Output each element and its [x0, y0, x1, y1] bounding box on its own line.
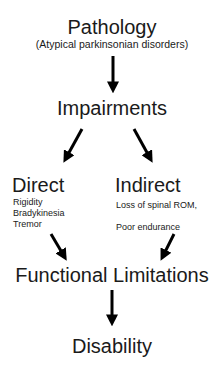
node-direct-title: Direct	[12, 175, 64, 195]
indirect-item: Loss of spinal ROM,	[116, 200, 197, 211]
node-disability-title: Disability	[0, 336, 224, 356]
indirect-items-list: Loss of spinal ROM, Poor endurance	[116, 200, 197, 233]
arrow-impairments-to-direct	[66, 129, 82, 158]
arrow-impairments-to-indirect	[134, 129, 150, 158]
node-indirect-title: Indirect	[115, 175, 181, 195]
arrow-indirect-to-functional-limitations	[163, 234, 174, 256]
node-pathology-subtitle: (Atypical parkinsonian disorders)	[0, 39, 224, 50]
node-impairments-title: Impairments	[0, 98, 224, 118]
indirect-item-spacer	[116, 211, 197, 222]
indirect-item: Poor endurance	[116, 222, 197, 233]
direct-item: Rigidity	[13, 197, 65, 208]
direct-item: Bradykinesia	[13, 208, 65, 219]
direct-item: Tremor	[13, 219, 65, 230]
arrow-direct-to-functional-limitations	[51, 234, 64, 256]
direct-items-list: Rigidity Bradykinesia Tremor	[13, 197, 65, 230]
node-functional-limitations-title: Functional Limitations	[0, 265, 224, 285]
node-pathology-title: Pathology	[0, 17, 224, 37]
